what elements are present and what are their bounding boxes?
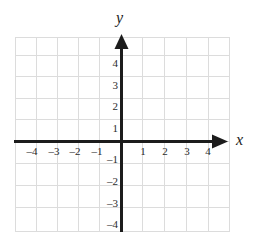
y-axis-arrowhead-icon	[115, 34, 129, 49]
y-axis-label: y	[116, 10, 123, 26]
y-tick-label-2: 2	[104, 101, 118, 112]
y-tick-label-1: 1	[104, 123, 118, 134]
coordinate-plane: –4 –3 –2 –1 1 2 3 4 4 3 2 1 –1 –2 –3 –4 …	[0, 0, 260, 249]
x-tick-label-4: 4	[201, 146, 215, 157]
x-tick-label-2: 2	[158, 146, 172, 157]
y-tick-label--2: –2	[100, 176, 118, 187]
x-tick-label--3: –3	[45, 146, 63, 157]
x-tick-label--2: –2	[66, 146, 84, 157]
coordinate-plane-graphics	[0, 0, 260, 249]
x-tick-label--4: –4	[23, 146, 41, 157]
y-tick-label--1: –1	[100, 154, 118, 165]
x-tick-label-3: 3	[180, 146, 194, 157]
x-tick-label-1: 1	[136, 146, 150, 157]
y-tick-label--3: –3	[100, 198, 118, 209]
y-tick-label-4: 4	[104, 58, 118, 69]
x-axis-label: x	[236, 132, 243, 148]
y-tick-label--4: –4	[100, 219, 118, 230]
y-tick-label-3: 3	[104, 80, 118, 91]
